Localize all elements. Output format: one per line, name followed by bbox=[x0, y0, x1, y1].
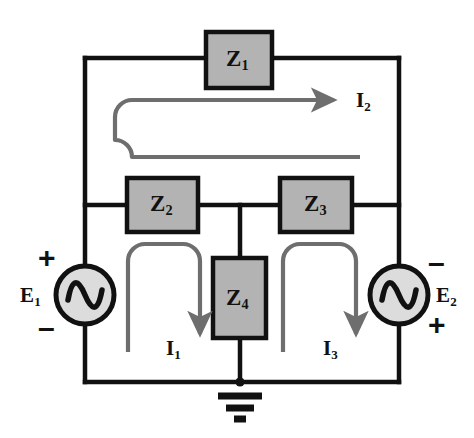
ac-source-e1[interactable] bbox=[56, 266, 114, 324]
ground-icon bbox=[218, 396, 262, 419]
mesh-current-i1-path bbox=[128, 244, 200, 352]
ac-source-e2-label: E2 bbox=[436, 285, 457, 306]
impedance-z1-label: Z1 bbox=[226, 47, 248, 70]
mesh-current-i3-label: I3 bbox=[323, 338, 338, 359]
mesh-current-i1-loop bbox=[128, 244, 200, 352]
mesh-current-i3-path bbox=[283, 244, 356, 352]
impedance-z3-label: Z3 bbox=[304, 192, 326, 215]
ac-source-e2[interactable] bbox=[370, 266, 428, 324]
impedance-z4-label: Z4 bbox=[226, 286, 248, 309]
ac-source-e1-plus-sign: + bbox=[38, 243, 56, 273]
mesh-current-i2-path bbox=[115, 100, 360, 157]
mesh-current-i3-loop bbox=[283, 244, 356, 352]
impedance-z2-label: Z2 bbox=[150, 192, 172, 215]
ac-source-e1-label: E1 bbox=[20, 285, 41, 306]
ac-source-e2-plus-sign: + bbox=[428, 310, 446, 340]
ac-source-e2-minus-sign: – bbox=[428, 248, 445, 278]
junction-dot-ground bbox=[235, 377, 244, 386]
mesh-current-i2-label: I2 bbox=[356, 90, 371, 111]
circuit-diagram: Z1 Z2 Z3 Z4 E1 + – E2 – + I1 I2 I3 bbox=[0, 0, 474, 438]
ac-source-e1-minus-sign: – bbox=[38, 313, 55, 343]
mesh-current-i2-loop bbox=[115, 100, 360, 157]
mesh-current-i1-label: I1 bbox=[166, 338, 181, 359]
